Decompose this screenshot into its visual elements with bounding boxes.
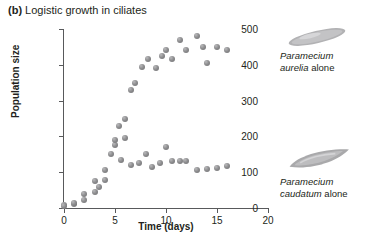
- x-axis-tick: [166, 209, 167, 213]
- data-point: [118, 157, 124, 163]
- data-point: [224, 163, 230, 169]
- y-axis-tick: [59, 172, 63, 173]
- data-point: [92, 178, 98, 184]
- x-axis-tick: [64, 209, 65, 213]
- data-point: [102, 177, 108, 183]
- y-axis-tick-label: 300: [241, 95, 258, 106]
- data-point: [145, 56, 151, 62]
- data-point: [204, 60, 210, 66]
- y-axis-tick-label: 400: [241, 59, 258, 70]
- data-point: [112, 142, 118, 148]
- x-axis-tick-label: 0: [61, 215, 67, 226]
- data-point: [183, 158, 189, 164]
- data-point: [128, 162, 134, 168]
- data-point: [71, 200, 77, 206]
- data-point: [143, 151, 149, 157]
- plot-area: 010020030040050005101520: [64, 29, 268, 208]
- data-point: [81, 197, 87, 203]
- figure-title-text: Logistic growth in ciliates: [25, 4, 147, 16]
- aurelia-annotation: Paramecium aurelia alone: [280, 50, 334, 73]
- data-point: [108, 151, 114, 157]
- y-axis-tick-label: 0: [252, 203, 258, 214]
- y-axis-tick-label: 500: [241, 24, 258, 35]
- aurelia-genus: Paramecium: [280, 50, 333, 61]
- y-axis-tick: [59, 29, 63, 30]
- aurelia-suffix: alone: [309, 62, 335, 73]
- data-point: [132, 80, 138, 86]
- y-axis-tick: [59, 101, 63, 102]
- data-point: [163, 47, 169, 53]
- y-axis-tick-label: 100: [241, 167, 258, 178]
- data-point: [177, 158, 183, 164]
- y-axis-tick-label: 200: [241, 131, 258, 142]
- data-point: [224, 47, 230, 53]
- data-point: [112, 137, 118, 143]
- x-axis-tick: [268, 209, 269, 213]
- y-axis-title: Population size: [10, 45, 21, 118]
- data-point: [177, 37, 183, 43]
- data-point: [92, 189, 98, 195]
- data-point: [194, 167, 200, 173]
- panel-letter: (b): [8, 4, 22, 16]
- aurelia-epithet: aurelia: [280, 62, 309, 73]
- data-point: [163, 144, 169, 150]
- caudatum-epithet: caudatum: [280, 188, 322, 199]
- data-point: [200, 44, 206, 50]
- data-point: [149, 164, 155, 170]
- y-axis-line: [63, 29, 64, 209]
- data-point: [153, 65, 159, 71]
- data-point: [194, 33, 200, 39]
- caudatum-genus: Paramecium: [280, 176, 333, 187]
- paramecium-caudatum-icon: [286, 149, 354, 171]
- data-point: [136, 160, 142, 166]
- data-point: [102, 167, 108, 173]
- x-axis-tick: [217, 209, 218, 213]
- paramecium-aurelia-icon: [286, 27, 348, 47]
- data-point: [122, 116, 128, 122]
- x-axis-tick-label: 5: [112, 215, 118, 226]
- data-point: [204, 166, 210, 172]
- data-point: [139, 64, 145, 70]
- data-point: [169, 56, 175, 62]
- data-point: [81, 191, 87, 197]
- data-point: [116, 123, 122, 129]
- x-axis-tick-label: 10: [160, 215, 171, 226]
- y-axis-tick: [59, 136, 63, 137]
- data-point: [214, 44, 220, 50]
- data-point: [128, 87, 134, 93]
- data-point: [214, 165, 220, 171]
- figure-title: (b) Logistic growth in ciliates: [8, 3, 147, 17]
- data-point: [122, 135, 128, 141]
- x-axis-tick-label: 15: [211, 215, 222, 226]
- caudatum-suffix: alone: [322, 188, 348, 199]
- data-point: [159, 53, 165, 59]
- data-point: [183, 47, 189, 53]
- data-point: [61, 203, 67, 209]
- caudatum-annotation: Paramecium caudatum alone: [280, 176, 348, 199]
- y-axis-tick: [59, 65, 63, 66]
- x-axis-tick: [115, 209, 116, 213]
- x-axis-tick-label: 20: [262, 215, 273, 226]
- figure-panel: (b) Logistic growth in ciliates Populati…: [0, 0, 381, 240]
- data-point: [96, 184, 102, 190]
- data-point: [157, 160, 163, 166]
- data-point: [169, 158, 175, 164]
